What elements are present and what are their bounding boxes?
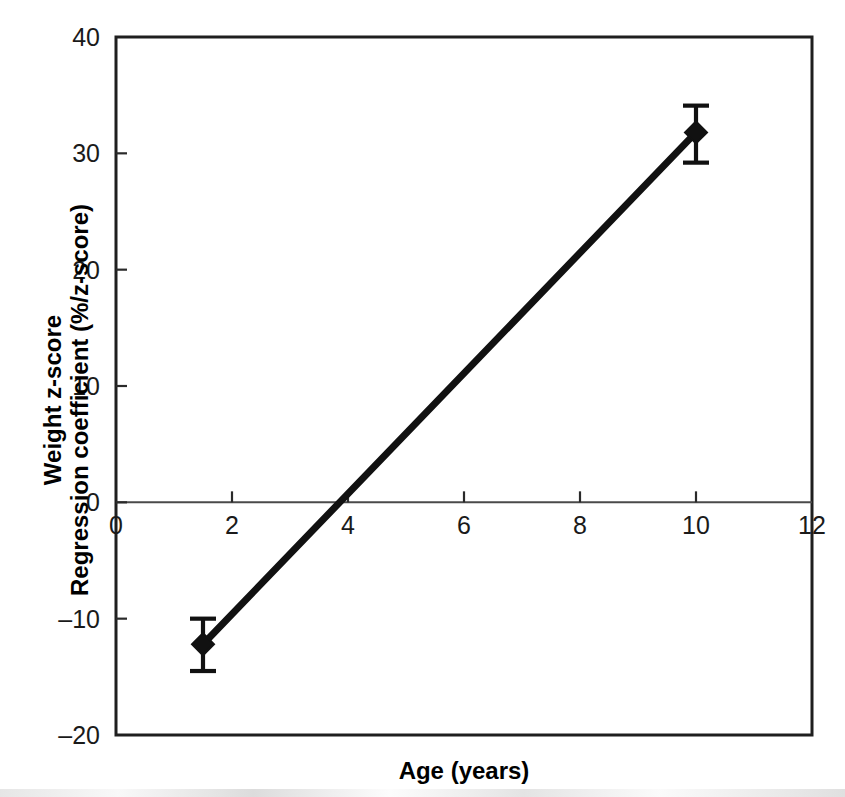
y-axis-ticks [116,153,127,618]
x-tick-label: 8 [573,511,587,539]
y-axis-title-line-1: Weight z-score [39,315,66,485]
x-axis-ticks [232,491,696,502]
y-tick-label: 30 [72,139,100,167]
regression-line-chart: 024681012 –20–10010203040 Weight z-score… [0,0,845,797]
data-series-group [203,132,696,644]
x-axis-title: Age (years) [399,757,530,784]
x-tick-label: 4 [341,511,355,539]
x-tick-label: 6 [457,511,471,539]
y-tick-label: 40 [72,23,100,51]
y-axis-title-line-2: Regression coefficient (%/z-score) [66,204,93,596]
series-line [203,132,696,644]
x-tick-label: 12 [798,511,826,539]
x-tick-label: 0 [109,511,123,539]
figure-container: 024681012 –20–10010203040 Weight z-score… [0,0,845,797]
y-tick-label: –10 [58,605,100,633]
x-axis-tick-labels: 024681012 [109,511,826,539]
x-tick-label: 2 [225,511,239,539]
x-tick-label: 10 [682,511,710,539]
y-tick-label: –20 [58,721,100,749]
